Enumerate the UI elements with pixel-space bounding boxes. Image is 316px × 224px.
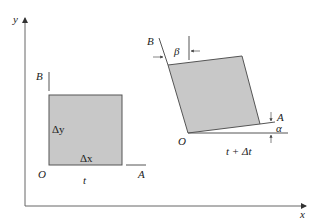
dy-label: Δy (52, 123, 65, 135)
ob-extension-line (159, 38, 168, 65)
diagram-canvas: y x B A O t Δy Δx B β A α O t + Δt (0, 0, 316, 224)
x-axis-label: x (299, 208, 305, 220)
alpha-label: α (276, 122, 282, 134)
oa-extension-line (260, 122, 275, 124)
deformed-element: B β A α O t + Δt (147, 35, 288, 157)
beta-label: β (173, 45, 180, 57)
initial-a-label: A (137, 168, 145, 180)
y-axis-label: y (12, 13, 18, 25)
initial-b-label: B (36, 70, 43, 82)
deformed-parallelogram (168, 56, 260, 133)
initial-element: B A O t Δy Δx (36, 70, 146, 186)
deformed-b-label: B (147, 35, 154, 47)
dx-label: Δx (80, 152, 93, 164)
deformed-origin-label: O (178, 135, 186, 147)
initial-origin-label: O (38, 168, 46, 180)
initial-time-label: t (83, 174, 87, 186)
deformed-time-label: t + Δt (226, 145, 252, 157)
